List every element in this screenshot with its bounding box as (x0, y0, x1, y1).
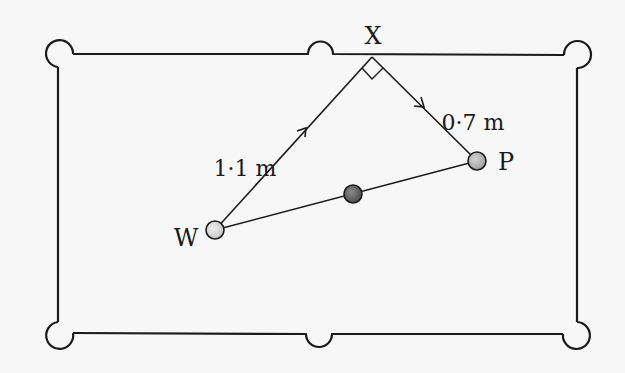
table-outline (46, 40, 591, 349)
snooker-table-diagram: X W P 1·1 m 0·7 m (0, 0, 625, 373)
ball-w (206, 221, 224, 239)
pocket-bottom-left (46, 322, 73, 349)
ball-p (468, 152, 486, 170)
pocket-top-right (564, 41, 591, 68)
pocket-top-left (46, 40, 73, 67)
label-x: X (364, 22, 381, 50)
right-angle-marker (362, 68, 383, 79)
top-cushion (73, 41, 564, 55)
bottom-cushion (73, 333, 563, 347)
label-length-xp: 0·7 m (442, 110, 505, 135)
arrow-icon-xp (414, 97, 424, 107)
ball-object (344, 185, 362, 203)
label-w: W (174, 224, 199, 252)
label-p: P (498, 148, 514, 176)
segment-x-p (372, 57, 477, 161)
segment-w-x (215, 57, 372, 230)
label-length-wx: 1·1 m (214, 156, 277, 181)
shot-paths (215, 57, 477, 230)
pocket-bottom-right (563, 322, 590, 349)
